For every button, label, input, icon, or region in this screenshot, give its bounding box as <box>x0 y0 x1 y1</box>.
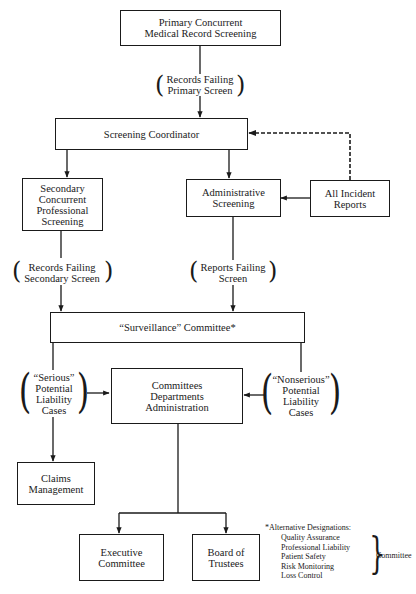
node-committees-departments-label: Committees Departments Administration <box>145 380 209 413</box>
node-administrative-screening: Administrative Screening <box>186 179 281 217</box>
paren-right-icon: ) <box>104 257 113 285</box>
footnote-item: Professional Liability <box>281 543 350 552</box>
paren-right-icon: ) <box>236 71 245 99</box>
node-primary-screening-label: Primary Concurrent Medical Record Screen… <box>145 17 257 39</box>
node-board-of-trustees: Board of Trustees <box>192 534 260 581</box>
edge-label-nonserious: “Nonserious” Potential Liability Cases <box>266 374 336 418</box>
node-incident-reports: All Incident Reports <box>310 180 390 217</box>
edge-label-reports-failing: Reports Failing Screen <box>195 262 271 284</box>
node-secondary-screening: Secondary Concurrent Professional Screen… <box>22 178 103 231</box>
node-board-of-trustees-label: Board of Trustees <box>207 547 244 569</box>
node-secondary-screening-label: Secondary Concurrent Professional Screen… <box>37 183 89 227</box>
node-screening-coordinator-label: Screening Coordinator <box>104 129 199 140</box>
footnote-suffix: Committee <box>376 551 412 560</box>
footnote-item: Quality Assurance <box>281 533 340 542</box>
node-committees-departments: Committees Departments Administration <box>111 368 243 424</box>
edge-label-serious: “Serious” Potential Liability Cases <box>26 372 82 416</box>
node-surveillance-committee: “Surveillance” Committee* <box>50 312 305 343</box>
node-administrative-screening-label: Administrative Screening <box>202 187 265 209</box>
node-primary-screening: Primary Concurrent Medical Record Screen… <box>120 10 281 46</box>
edge-label-records-failing-secondary: Records Failing Secondary Screen <box>18 262 106 284</box>
node-surveillance-committee-label: “Surveillance” Committee* <box>119 322 235 333</box>
paren-right-icon: ) <box>268 257 277 285</box>
footnote-item: Loss Control <box>281 571 323 580</box>
footnote-heading: *Alternative Designations: <box>265 523 351 532</box>
footnote-item: Risk Monitoring <box>281 562 334 571</box>
node-screening-coordinator: Screening Coordinator <box>55 118 248 150</box>
footnote-item: Patient Safety <box>281 552 326 561</box>
paren-right-icon: ) <box>77 365 90 417</box>
node-incident-reports-label: All Incident Reports <box>325 188 375 210</box>
node-claims-management: Claims Management <box>17 462 95 505</box>
node-executive-committee-label: Executive Committee <box>98 547 145 569</box>
paren-right-icon: ) <box>329 366 342 418</box>
node-executive-committee: Executive Committee <box>79 534 164 581</box>
edge-incident-coordinator-dashed <box>249 133 350 180</box>
edge-label-records-failing-primary: Records Failing Primary Screen <box>160 74 240 96</box>
node-claims-management-label: Claims Management <box>29 473 84 495</box>
